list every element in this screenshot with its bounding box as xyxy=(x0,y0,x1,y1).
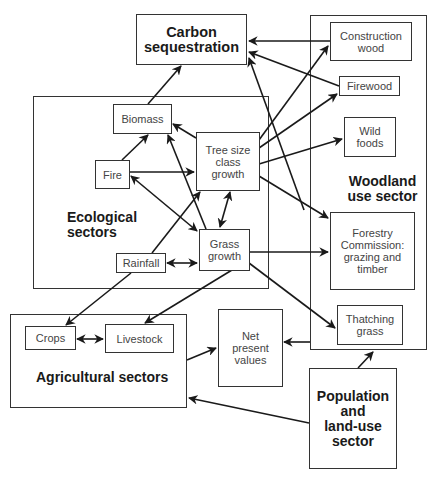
tree-size-class-growth-label: Tree size class growth xyxy=(206,144,251,180)
crops-node: Crops xyxy=(25,326,76,350)
agricultural-sectors-label: Agricultural sectors xyxy=(36,370,168,385)
grass-growth-label: Grass growth xyxy=(208,238,241,262)
rainfall-node: Rainfall xyxy=(116,253,166,273)
population-land-use-sector-node: Population and land-use sector xyxy=(309,368,397,469)
construction-wood-label: Construction wood xyxy=(340,30,402,54)
net-present-values-label: Net present values xyxy=(232,330,269,366)
population-land-use-sector-label: Population and land-use sector xyxy=(317,389,389,449)
crops-label: Crops xyxy=(36,332,65,344)
wild-foods-node: Wild foods xyxy=(344,117,396,157)
tree-size-class-growth-node: Tree size class growth xyxy=(196,132,260,191)
net-present-values-node: Net present values xyxy=(218,309,283,387)
firewood-node: Firewood xyxy=(339,76,400,96)
thatching-grass-label: Thatching grass xyxy=(346,313,394,337)
thatching-grass-node: Thatching grass xyxy=(337,305,403,345)
firewood-label: Firewood xyxy=(347,80,392,92)
woodland-use-sector-label: Woodland use sector xyxy=(340,174,425,204)
livestock-label: Livestock xyxy=(117,333,163,345)
fire-label: Fire xyxy=(103,169,122,181)
fire-node: Fire xyxy=(95,160,130,189)
forestry-commission-label: Forestry Commission: grazing and timber xyxy=(341,227,405,275)
carbon-sequestration-label: Carbon sequestration xyxy=(144,25,239,55)
construction-wood-node: Construction wood xyxy=(330,22,412,61)
grass-growth-node: Grass growth xyxy=(199,229,250,271)
biomass-label: Biomass xyxy=(121,113,163,125)
biomass-node: Biomass xyxy=(113,104,172,134)
rainfall-label: Rainfall xyxy=(123,257,160,269)
wild-foods-label: Wild foods xyxy=(357,125,384,149)
ecological-sectors-label: Ecological sectors xyxy=(67,210,137,240)
carbon-sequestration-node: Carbon sequestration xyxy=(136,14,247,65)
livestock-node: Livestock xyxy=(105,324,174,353)
forestry-commission-node: Forestry Commission: grazing and timber xyxy=(330,212,415,290)
